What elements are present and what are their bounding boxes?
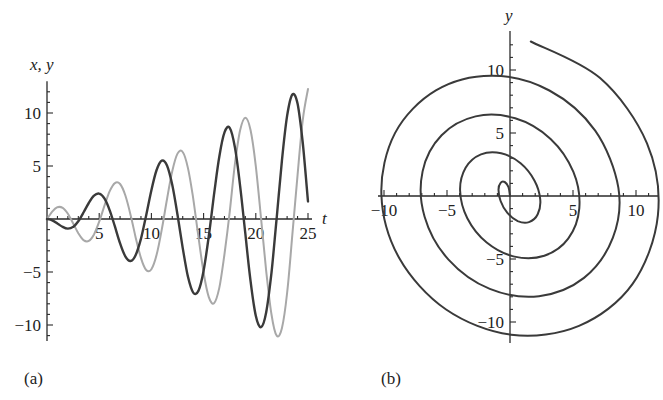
panel-b-y-tick-label: 5 xyxy=(496,124,505,143)
figure: 510152025−10−5510 t x, y (a) −10−5510−10… xyxy=(0,0,663,400)
panel-b-x-tick-label: 10 xyxy=(628,201,645,220)
panel-b-phase-plot: −10−5510−10−5510 y (b) xyxy=(371,6,659,388)
panel-a-label: (a) xyxy=(24,369,43,388)
panel-b-x-tick-label: −5 xyxy=(438,201,456,220)
panel-a-y-tick-label: −10 xyxy=(14,316,41,335)
panel-a-y-tick-label: 5 xyxy=(33,157,42,176)
panel-a-axes xyxy=(47,81,312,341)
panel-b-x-tick-label: 5 xyxy=(569,201,578,220)
panel-a-x-tick-label: 10 xyxy=(143,224,160,243)
panel-b-y-tick-label: −10 xyxy=(477,313,504,332)
panel-a-time-series: 510152025−10−5510 t x, y (a) xyxy=(14,55,328,388)
panel-a-y-tick-label: 10 xyxy=(24,104,41,123)
panel-a-y-axis-label: x, y xyxy=(29,55,54,74)
panel-b-y-axis-label: y xyxy=(503,6,513,25)
panel-b-y-tick-label: 10 xyxy=(487,61,504,80)
panel-b-spiral-curve xyxy=(381,42,658,336)
panel-b-label: (b) xyxy=(381,369,401,388)
panel-a-curve-x xyxy=(47,94,308,327)
panel-b-spiral xyxy=(381,42,658,336)
panel-a-curves xyxy=(47,89,308,337)
panel-a-x-tick-label: 25 xyxy=(300,224,317,243)
panel-a-y-tick-label: −5 xyxy=(23,263,41,282)
panel-a-x-axis-label: t xyxy=(322,209,328,228)
